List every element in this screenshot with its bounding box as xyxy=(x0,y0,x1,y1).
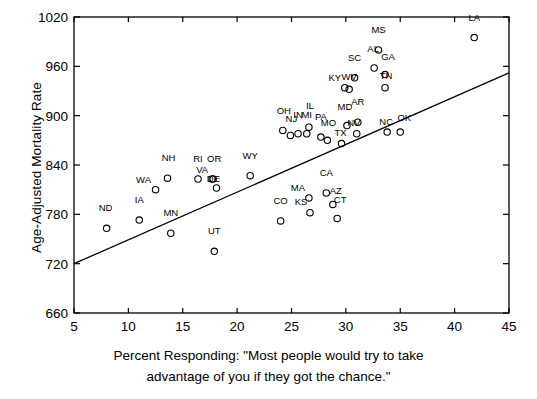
data-point-marker xyxy=(287,132,293,138)
data-point-label: MD xyxy=(338,101,353,112)
x-tick-label: 5 xyxy=(70,319,78,334)
data-point-label: UT xyxy=(208,225,221,236)
data-point-label: NV xyxy=(347,117,361,128)
data-point-ut: UT xyxy=(208,225,221,254)
y-tick-label: 1020 xyxy=(38,10,68,25)
x-tick-label: 30 xyxy=(338,319,353,334)
x-tick-label: 15 xyxy=(175,319,190,334)
data-point-nd: ND xyxy=(99,202,113,231)
data-point-label: SC xyxy=(348,52,361,63)
x-tick-label: 25 xyxy=(284,319,299,334)
data-points-layer: NDIAWANHMNRIORVADEUTWYCOOHNJINMIILMAKSPA… xyxy=(99,12,481,255)
x-tick-label: 20 xyxy=(230,319,245,334)
x-axis-caption-line-1: Percent Responding: "Most people would t… xyxy=(0,345,537,366)
y-tick-label: 780 xyxy=(45,207,68,222)
data-point-ok: OK xyxy=(397,112,412,135)
data-point-marker xyxy=(471,34,477,40)
data-point-marker xyxy=(136,217,142,223)
data-point-marker xyxy=(168,230,174,236)
x-axis-caption-line-2: advantage of you if they got the chance.… xyxy=(0,366,537,387)
data-point-label: IA xyxy=(135,194,145,205)
y-tick-label: 660 xyxy=(45,306,68,321)
x-tick-label: 10 xyxy=(121,319,136,334)
data-point-label: NH xyxy=(162,152,176,163)
data-point-label: DE xyxy=(207,173,220,184)
data-point-marker xyxy=(152,186,158,192)
data-point-tn: TN xyxy=(380,70,393,91)
data-point-nv: NV xyxy=(347,117,361,137)
plot-canvas: NDIAWANHMNRIORVADEUTWYCOOHNJINMIILMAKSPA… xyxy=(0,0,537,399)
data-point-marker xyxy=(295,131,301,137)
data-point-label: IL xyxy=(306,100,314,111)
data-point-marker xyxy=(211,248,217,254)
data-point-label: OK xyxy=(397,112,411,123)
data-point-tx: TX xyxy=(334,127,347,147)
data-point-ia: IA xyxy=(135,194,145,223)
data-point-label: CO xyxy=(274,195,288,206)
data-point-marker xyxy=(371,65,377,71)
x-axis-caption: Percent Responding: "Most people would t… xyxy=(0,345,537,387)
data-point-marker xyxy=(306,124,312,130)
data-point-label: ND xyxy=(99,202,113,213)
data-point-co: CO xyxy=(274,195,288,224)
data-point-marker xyxy=(397,129,403,135)
y-tick-label: 720 xyxy=(45,257,68,272)
y-tick-label: 900 xyxy=(45,109,68,124)
data-point-label: CA xyxy=(320,167,334,178)
data-point-label: TN xyxy=(380,70,393,81)
data-point-ks: KS xyxy=(295,196,314,216)
data-point-marker xyxy=(280,127,286,133)
data-point-label: MN xyxy=(163,207,178,218)
data-point-marker xyxy=(195,176,201,182)
plot-axes xyxy=(74,17,509,313)
y-tick-label: 960 xyxy=(45,59,68,74)
data-point-label: MA xyxy=(291,182,306,193)
data-point-ct: CT xyxy=(334,194,347,221)
data-point-label: KS xyxy=(295,196,308,207)
data-point-de: DE xyxy=(207,173,220,191)
data-point-marker xyxy=(382,85,388,91)
data-point-label: KY xyxy=(328,72,341,83)
data-point-la: LA xyxy=(468,12,480,41)
data-point-label: NC xyxy=(379,116,393,127)
data-point-label: MS xyxy=(371,24,385,35)
data-point-label: CT xyxy=(334,194,347,205)
x-tick-label: 45 xyxy=(501,319,516,334)
data-point-label: RI xyxy=(193,153,203,164)
data-point-marker xyxy=(318,134,324,140)
data-point-label: GA xyxy=(381,51,395,62)
data-point-marker xyxy=(354,131,360,137)
data-point-marker xyxy=(307,209,313,215)
data-point-nh: NH xyxy=(162,152,176,181)
scatter-plot-figure: Age-Adjusted Mortality Rate NDIAWANHMNRI… xyxy=(0,0,537,399)
data-point-marker xyxy=(304,131,310,137)
data-point-mi: MI xyxy=(301,109,312,137)
data-point-marker xyxy=(164,175,170,181)
x-tick-label: 35 xyxy=(393,319,408,334)
regression-line xyxy=(74,73,509,264)
data-point-wa: WA xyxy=(136,174,159,193)
data-point-marker xyxy=(277,218,283,224)
data-point-marker xyxy=(384,129,390,135)
data-point-marker xyxy=(247,172,253,178)
data-point-marker xyxy=(334,215,340,221)
data-point-marker xyxy=(213,185,219,191)
data-point-marker xyxy=(324,137,330,143)
y-tick-label: 840 xyxy=(45,158,68,173)
data-point-wy: WY xyxy=(243,150,259,179)
data-point-marker xyxy=(323,190,329,196)
data-point-label: AR xyxy=(351,96,364,107)
x-tick-label: 40 xyxy=(447,319,462,334)
data-point-label: WY xyxy=(243,150,259,161)
data-point-label: LA xyxy=(468,12,480,23)
data-point-label: OR xyxy=(207,153,221,164)
data-point-label: WA xyxy=(136,174,152,185)
data-point-marker xyxy=(103,225,109,231)
data-point-nc: NC xyxy=(379,116,393,135)
tick-labels-layer: 510152025303540456607207808409009601020 xyxy=(38,10,517,334)
